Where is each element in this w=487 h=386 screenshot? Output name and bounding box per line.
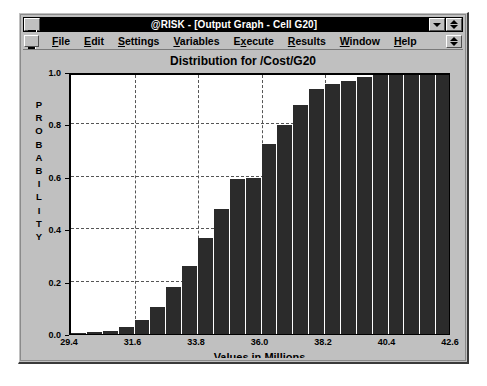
application-window: @RISK - [Output Graph - Cell G20] Fil	[18, 12, 469, 364]
menu-item-variables[interactable]: Variables	[166, 35, 226, 47]
chart-bar	[150, 307, 166, 335]
chart-bar	[166, 287, 182, 334]
plot-inner	[71, 75, 449, 334]
chart-bar	[71, 333, 87, 334]
chevron-down-glyph	[433, 23, 441, 27]
chart-bar	[325, 84, 341, 334]
window-controls	[428, 18, 462, 31]
restore-glyph	[450, 20, 458, 29]
document-system-menu-glyph	[28, 47, 36, 49]
chevron-up-glyph	[450, 37, 458, 41]
menu-item-window[interactable]: Window	[333, 35, 387, 47]
x-axis-tick-label: 31.6	[124, 337, 142, 347]
chart-bar	[420, 75, 436, 334]
x-axis-tick-label: 40.4	[378, 337, 396, 347]
chart-bar	[436, 75, 449, 334]
output-graph-client-area: Distribution for /Cost/G20 PROBABILITY 0…	[23, 50, 463, 358]
chart-bar	[182, 266, 198, 334]
chart-bar	[87, 332, 103, 334]
system-menu-icon[interactable]	[24, 18, 40, 31]
minimize-icon[interactable]	[429, 18, 445, 31]
chart-bar	[404, 75, 420, 334]
plot-area	[69, 73, 450, 335]
x-axis-tick-label: 33.8	[187, 337, 205, 347]
y-axis-tick-label: 0.4	[39, 225, 61, 235]
chart-bar	[262, 144, 278, 334]
x-axis-tick-label: 36.0	[251, 337, 269, 347]
menu-bar: File Edit Settings Variables Execute Res…	[23, 33, 463, 50]
chart-bar	[357, 77, 373, 334]
menu-item-results[interactable]: Results	[281, 35, 333, 47]
menu-item-execute[interactable]: Execute	[227, 35, 281, 47]
menu-item-help[interactable]: Help	[387, 35, 424, 47]
x-axis-tick-label: 42.6	[441, 337, 459, 347]
restore-glyph	[450, 37, 458, 46]
menu-item-settings[interactable]: Settings	[111, 35, 166, 47]
chart-bar	[246, 178, 262, 334]
system-menu-glyph	[28, 30, 37, 32]
y-axis-tick-label: 0.2	[39, 278, 61, 288]
window-inner-frame: @RISK - [Output Graph - Cell G20] Fil	[20, 14, 466, 361]
restore-icon[interactable]	[446, 18, 462, 31]
chart-title: Distribution for /Cost/G20	[23, 54, 463, 68]
document-system-menu-icon[interactable]	[24, 35, 39, 47]
x-axis-tick-label: 29.4	[60, 337, 78, 347]
y-axis-tick-label: 0.0	[39, 330, 61, 340]
menu-item-file[interactable]: File	[45, 35, 77, 47]
chart-bar	[389, 75, 405, 334]
chart-bar	[119, 327, 135, 334]
document-restore-icon[interactable]	[446, 35, 462, 48]
chart-bar	[230, 179, 246, 334]
chart-bar	[103, 331, 119, 334]
y-axis-tick-mark	[65, 335, 69, 336]
x-axis-label: Values in Millions	[69, 351, 450, 358]
chevron-down-glyph	[450, 42, 458, 46]
chart-bar	[309, 89, 325, 334]
vertical-gridline	[135, 75, 136, 334]
chart-bar	[277, 125, 293, 334]
chart-bar	[293, 105, 309, 334]
chart-bar	[198, 238, 214, 334]
chevron-up-glyph	[450, 20, 458, 24]
x-axis-tick-label: 38.2	[314, 337, 332, 347]
chart-bar	[373, 75, 389, 334]
menu-item-list: File Edit Settings Variables Execute Res…	[45, 35, 446, 47]
chart-bar	[135, 320, 151, 334]
chart-bar	[214, 209, 230, 334]
y-axis-tick-label: 0.6	[39, 173, 61, 183]
y-axis-tick-area: 0.00.20.40.60.81.0	[23, 73, 69, 335]
window-title: @RISK - [Output Graph - Cell G20]	[40, 19, 428, 30]
menu-item-edit[interactable]: Edit	[77, 35, 111, 47]
title-bar: @RISK - [Output Graph - Cell G20]	[23, 17, 463, 32]
chart-bar	[341, 81, 357, 334]
y-axis-tick-label: 0.8	[39, 120, 61, 130]
x-axis-tick-area: 29.431.633.836.038.240.442.6	[69, 337, 450, 351]
chevron-down-glyph	[450, 25, 458, 29]
y-axis-tick-label: 1.0	[39, 68, 61, 78]
